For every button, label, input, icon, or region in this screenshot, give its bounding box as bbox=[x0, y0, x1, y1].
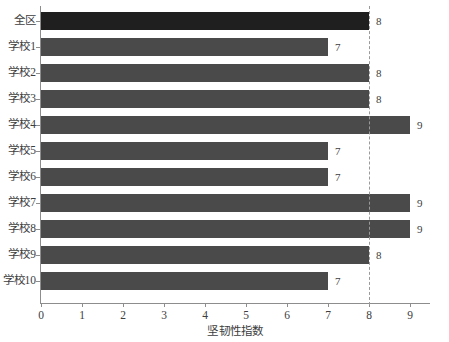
bar bbox=[41, 142, 328, 160]
bar bbox=[41, 246, 369, 264]
y-axis-tick-mark bbox=[36, 177, 40, 178]
y-axis-tick-label: 学校10 bbox=[0, 274, 36, 287]
bar bbox=[41, 168, 328, 186]
bar-row bbox=[41, 268, 328, 294]
y-axis-tick-mark bbox=[36, 73, 40, 74]
y-axis-tick-mark bbox=[36, 203, 40, 204]
bar-value-label: 9 bbox=[417, 220, 423, 238]
x-axis-tick-label: 7 bbox=[318, 309, 338, 321]
bar bbox=[41, 64, 369, 82]
bar-row bbox=[41, 86, 369, 112]
bar-value-label: 7 bbox=[335, 272, 341, 290]
x-axis-tick-label: 1 bbox=[72, 309, 92, 321]
bar bbox=[41, 116, 410, 134]
y-axis-tick-label: 全区 bbox=[0, 14, 36, 27]
y-axis-tick-label: 学校2 bbox=[0, 66, 36, 79]
y-axis-tick-label: 学校3 bbox=[0, 92, 36, 105]
bar bbox=[41, 194, 410, 212]
bar-row bbox=[41, 34, 328, 60]
y-axis-tick-mark bbox=[36, 229, 40, 230]
y-axis-tick-label: 学校8 bbox=[0, 222, 36, 235]
bar bbox=[41, 90, 369, 108]
bar-value-label: 8 bbox=[376, 246, 382, 264]
x-axis-tick-mark bbox=[82, 303, 83, 307]
x-axis-tick-mark bbox=[205, 303, 206, 307]
reference-line bbox=[369, 6, 370, 305]
bar-row bbox=[41, 112, 410, 138]
bar bbox=[41, 272, 328, 290]
y-axis-tick-mark bbox=[36, 125, 40, 126]
x-axis-tick-mark bbox=[164, 303, 165, 307]
x-axis-tick-mark bbox=[328, 303, 329, 307]
x-axis-tick-mark bbox=[123, 303, 124, 307]
x-axis-tick-mark bbox=[246, 303, 247, 307]
x-axis-tick-label: 3 bbox=[154, 309, 174, 321]
x-axis-tick-label: 2 bbox=[113, 309, 133, 321]
x-axis-tick-label: 5 bbox=[236, 309, 256, 321]
bar-value-label: 8 bbox=[376, 64, 382, 82]
x-axis-tick-label: 0 bbox=[31, 309, 51, 321]
x-axis-tick-label: 6 bbox=[277, 309, 297, 321]
bar-row bbox=[41, 164, 328, 190]
bar-value-label: 9 bbox=[417, 194, 423, 212]
bar-value-label: 7 bbox=[335, 38, 341, 56]
bar-value-label: 7 bbox=[335, 142, 341, 160]
y-axis-tick-mark bbox=[36, 99, 40, 100]
y-axis-tick-label: 学校1 bbox=[0, 40, 36, 53]
x-axis-line bbox=[40, 303, 430, 304]
y-axis-tick-label: 学校7 bbox=[0, 196, 36, 209]
bar-value-label: 8 bbox=[376, 90, 382, 108]
bar bbox=[41, 220, 410, 238]
x-axis-tick-mark bbox=[410, 303, 411, 307]
x-axis-tick-label: 9 bbox=[400, 309, 420, 321]
y-axis-tick-mark bbox=[36, 151, 40, 152]
bar-row bbox=[41, 190, 410, 216]
x-axis-tick-mark bbox=[41, 303, 42, 307]
y-axis-tick-mark bbox=[36, 255, 40, 256]
x-axis-tick-mark bbox=[287, 303, 288, 307]
y-axis-tick-mark bbox=[36, 281, 40, 282]
x-axis-tick-label: 8 bbox=[359, 309, 379, 321]
bar-row bbox=[41, 242, 369, 268]
bar bbox=[41, 38, 328, 56]
bar-row bbox=[41, 216, 410, 242]
bar-row bbox=[41, 8, 369, 34]
y-axis-tick-mark bbox=[36, 21, 40, 22]
y-axis-tick-label: 学校6 bbox=[0, 170, 36, 183]
bar-value-label: 7 bbox=[335, 168, 341, 186]
bar-row bbox=[41, 60, 369, 86]
x-axis-tick-label: 4 bbox=[195, 309, 215, 321]
y-axis-tick-label: 学校5 bbox=[0, 144, 36, 157]
y-axis-tick-label: 学校9 bbox=[0, 248, 36, 261]
y-axis-tick-mark bbox=[36, 47, 40, 48]
bar bbox=[41, 12, 369, 30]
bar-row bbox=[41, 138, 328, 164]
x-axis-title: 坚韧性指数 bbox=[41, 322, 430, 338]
bar-value-label: 9 bbox=[417, 116, 423, 134]
bar-value-label: 8 bbox=[376, 12, 382, 30]
bar-chart: 全区学校1学校2学校3学校4学校5学校6学校7学校8学校9学校10 878897… bbox=[0, 0, 449, 342]
y-axis-tick-label: 学校4 bbox=[0, 118, 36, 131]
